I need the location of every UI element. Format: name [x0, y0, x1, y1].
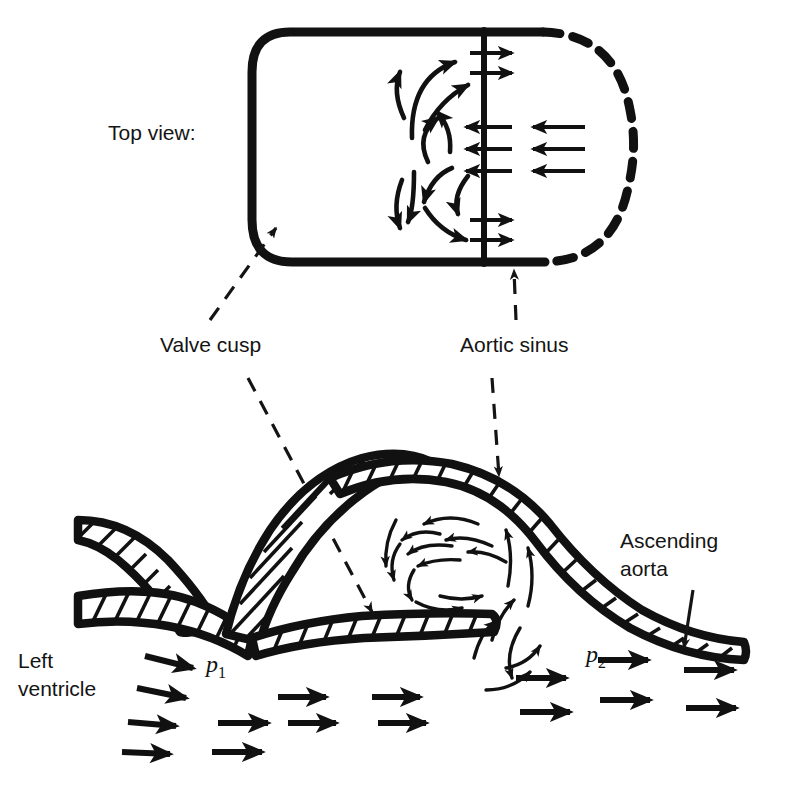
side-view-cusp-shelf	[252, 606, 497, 660]
pressure-p2-subscript: 2	[598, 654, 606, 671]
ascending-aorta-label-line1: Ascending	[620, 529, 718, 552]
aortic-sinus-label: Aortic sinus	[460, 333, 569, 356]
top-view-jet-arrows-upper-right	[470, 53, 512, 73]
pressure-p2-label: p2	[584, 641, 606, 671]
figure-root: Top view:	[0, 0, 795, 789]
left-ventricle-label-line2: ventricle	[18, 677, 96, 700]
top-view-jet-arrows-lower-right	[470, 220, 512, 240]
aortic-sinus-leader-topview	[514, 270, 516, 320]
pressure-p1-subscript: 1	[218, 664, 226, 681]
pressure-p1-symbol: p	[204, 651, 218, 677]
aortic-valve-flow-diagram: Top view:	[0, 0, 795, 789]
ascending-aorta-label-line2: aorta	[620, 557, 668, 580]
pressure-p2-symbol: p	[584, 641, 598, 667]
valve-cusp-leader-topview	[210, 228, 276, 320]
left-ventricle-label-line1: Left	[18, 649, 53, 672]
aortic-sinus-leader-sideview	[492, 378, 499, 476]
valve-cusp-label: Valve cusp	[160, 333, 261, 356]
top-view-label: Top view:	[108, 121, 196, 144]
top-view-upper-vortex	[397, 62, 468, 162]
top-view-lower-vortex	[396, 168, 468, 240]
pressure-p1-label: p1	[204, 651, 226, 681]
side-view-sinus-vortex	[386, 518, 540, 690]
